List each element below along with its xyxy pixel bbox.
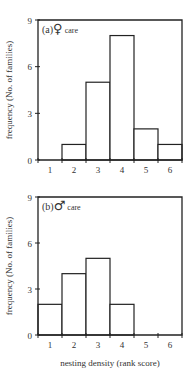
x-tick-label: 4	[120, 340, 125, 350]
panel-title: (a)♀care	[42, 21, 78, 36]
panel-title: (b)♂care	[42, 198, 81, 213]
male-symbol-icon: ♂	[54, 198, 66, 213]
y-axis-label: frequency (No. of families)	[4, 41, 14, 139]
x-axis-label: nesting density (rank score)	[60, 358, 160, 368]
histogram-figure: 0369123456(a)♀carefrequency (No. of fami…	[0, 0, 194, 385]
y-tick-label: 9	[28, 16, 33, 26]
x-tick-label: 4	[120, 165, 125, 175]
y-tick-label: 6	[28, 239, 33, 249]
x-tick-label: 1	[48, 165, 53, 175]
bar-4	[110, 304, 134, 335]
x-tick-label: 6	[168, 340, 173, 350]
y-tick-label: 0	[28, 156, 33, 166]
bar-3	[86, 82, 110, 160]
y-tick-label: 0	[28, 331, 33, 341]
y-axis-label: frequency (No. of families)	[4, 217, 14, 315]
bar-2	[62, 274, 86, 335]
histogram-panel-a: 0369123456(a)♀carefrequency (No. of fami…	[4, 16, 182, 176]
x-tick-label: 2	[72, 165, 77, 175]
x-tick-label: 2	[72, 340, 77, 350]
bar-6	[158, 144, 182, 160]
bar-1	[38, 304, 62, 335]
x-tick-label: 5	[144, 340, 149, 350]
y-tick-label: 9	[28, 193, 33, 203]
y-tick-label: 3	[28, 109, 33, 119]
bar-2	[62, 144, 86, 160]
bar-3	[86, 258, 110, 335]
histogram-panel-b: 0369123456(b)♂carefrequency (No. of fami…	[4, 193, 182, 369]
x-tick-label: 1	[48, 340, 53, 350]
bar-5	[134, 129, 158, 160]
x-tick-label: 3	[96, 340, 101, 350]
female-symbol-icon: ♀	[53, 21, 63, 36]
x-tick-label: 5	[144, 165, 149, 175]
x-tick-label: 6	[168, 165, 173, 175]
y-tick-label: 3	[28, 285, 33, 295]
x-tick-label: 3	[96, 165, 101, 175]
y-tick-label: 6	[28, 62, 33, 72]
bar-4	[110, 36, 134, 160]
